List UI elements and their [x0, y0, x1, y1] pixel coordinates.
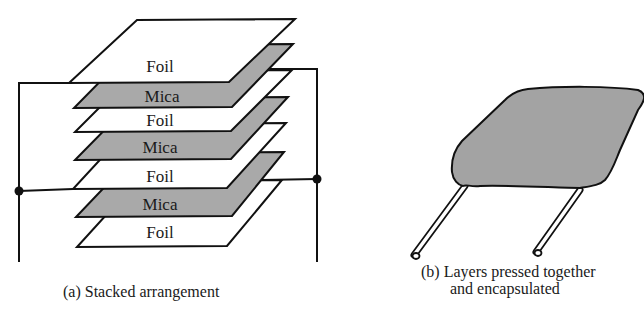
encapsulated-capacitor: [413, 87, 644, 259]
svg-text:Foil: Foil: [146, 223, 174, 242]
left-terminal-wire: [19, 83, 73, 262]
left-junction-dot: [15, 187, 24, 196]
svg-text:Foil: Foil: [146, 111, 174, 130]
encapsulation-body: [452, 87, 644, 188]
right-lead: [535, 190, 581, 256]
caption-panel-b-line1: (b) Layers pressed together: [421, 263, 596, 280]
svg-text:Mica: Mica: [145, 87, 180, 106]
right-junction-dot: [313, 175, 322, 184]
svg-text:Foil: Foil: [146, 167, 174, 186]
caption-panel-b-line2: and encapsulated: [450, 280, 560, 297]
svg-text:Mica: Mica: [143, 195, 178, 214]
left-lead: [413, 186, 466, 259]
caption-panel-a: (a) Stacked arrangement: [63, 283, 219, 300]
svg-text:Foil: Foil: [146, 57, 174, 76]
svg-text:Mica: Mica: [143, 138, 178, 157]
